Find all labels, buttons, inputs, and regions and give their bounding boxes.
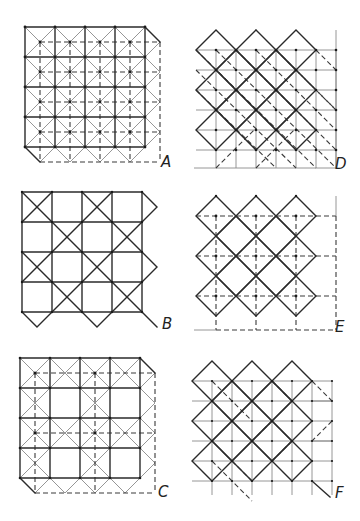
lattice-node [39,71,42,74]
lattice-node [81,221,83,223]
lattice-node [141,191,143,193]
lattice-node [315,89,318,92]
lattice-node [255,69,258,72]
lattice-node [129,71,132,74]
lattice-node [271,460,273,462]
lattice-node [129,101,132,104]
lattice-node [295,195,297,197]
lattice-node [291,480,293,482]
lattice-node [39,131,42,134]
grid-line [142,312,157,327]
lattice-node [215,69,218,72]
panel-label-f: F [335,484,344,502]
lattice-node [49,477,52,480]
diagonal-line [100,147,115,162]
lattice-node [114,26,117,29]
lattice-node [139,357,142,360]
outline-segment [216,256,256,296]
lattice-node [255,129,258,132]
outline-segment [82,312,112,327]
lattice-node [79,417,82,420]
lattice-node [231,460,233,462]
lattice-node [144,56,147,59]
lattice-node [275,149,278,152]
panel-d [194,30,337,168]
lattice-node [275,109,278,112]
lattice-node [275,69,278,72]
outline-segment [142,192,157,222]
grid-line [312,481,330,497]
diagonal-line [140,418,155,433]
diagonal-line [50,478,65,493]
diagonal-line [145,57,160,72]
lattice-node [215,109,218,112]
lattice-node [211,400,213,402]
lattice-node [211,440,213,442]
lattice-node [215,255,218,258]
lattice-node [311,380,313,382]
lattice-node [231,380,233,382]
lattice-node [69,131,72,134]
lattice-node [211,420,213,422]
diagonal-line [145,87,160,102]
lattice-node [335,149,338,152]
lattice-node [331,460,333,462]
diagonal-line [145,117,160,132]
lattice-node [144,26,147,29]
lattice-node [251,480,253,482]
lattice-node [21,311,23,313]
diagonal-line [55,147,70,162]
lattice-node [114,116,117,119]
lattice-node [51,191,53,193]
lattice-node [255,149,258,152]
diagonal-line [65,478,80,493]
outline-segment [256,216,296,256]
lattice-node [211,380,213,382]
diagonal-line [140,388,155,403]
lattice-node [51,221,53,223]
lattice-node [21,191,23,193]
lattice-node [84,146,87,149]
lattice-node [69,41,72,44]
lattice-node [114,56,117,59]
lattice-node [315,109,318,112]
lattice-node [295,215,298,218]
lattice-node [69,71,72,74]
lattice-node [109,417,112,420]
lattice-node [311,480,313,482]
lattice-node [144,146,147,149]
lattice-node [129,131,132,134]
lattice-node [19,357,22,360]
grid-line [20,478,35,493]
lattice-node [211,460,213,462]
outline-segment [256,256,296,296]
grid-line [140,358,155,373]
lattice-node [24,26,27,29]
lattice-node [215,295,218,298]
lattice-node [255,109,258,112]
lattice-node [215,195,217,197]
lattice-node [271,420,273,422]
diagonal-line [140,433,155,448]
lattice-node [79,477,82,480]
lattice-node [315,49,318,52]
lattice-node [231,400,233,402]
lattice-node [275,89,278,92]
grid-line [145,27,160,42]
lattice-node [49,447,52,450]
outline-segment [216,216,256,256]
lattice-node [99,131,102,134]
lattice-node [335,109,338,112]
panel-label-b: B [162,315,172,333]
lattice-node [79,447,82,450]
panel-f [192,361,333,501]
outline-segment [22,312,52,327]
lattice-node [114,86,117,89]
lattice-node [255,295,258,298]
lattice-node [235,69,238,72]
lattice-node [141,221,143,223]
diagonal-line [40,147,55,162]
lattice-node [215,129,218,132]
lattice-node [335,49,338,52]
lattice-node [235,89,238,92]
